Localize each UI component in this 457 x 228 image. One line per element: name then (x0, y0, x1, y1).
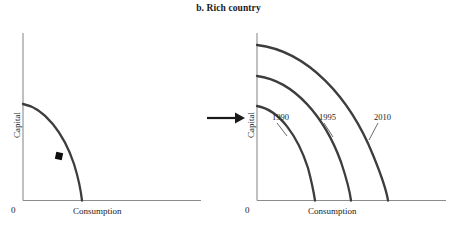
curve-label-2010: 2010 (374, 112, 391, 122)
curve-label-1990: 1990 (272, 112, 289, 122)
panel-left (23, 33, 201, 201)
figure-container: b. Rich country (0, 0, 457, 228)
curve-label-1995: 1995 (319, 112, 336, 122)
leader-line-2010 (369, 123, 378, 140)
left-origin-label: 0 (11, 205, 16, 215)
left-ppf-point-marker (55, 152, 63, 160)
left-y-axis-label: Capital (12, 112, 22, 138)
transition-arrow-icon (207, 113, 245, 124)
right-y-axis-label: Capital (246, 112, 256, 138)
left-ppf-curve (23, 104, 82, 201)
right-origin-label: 0 (245, 205, 250, 215)
left-x-axis-label: Consumption (73, 206, 122, 216)
right-x-axis-label: Consumption (308, 206, 357, 216)
